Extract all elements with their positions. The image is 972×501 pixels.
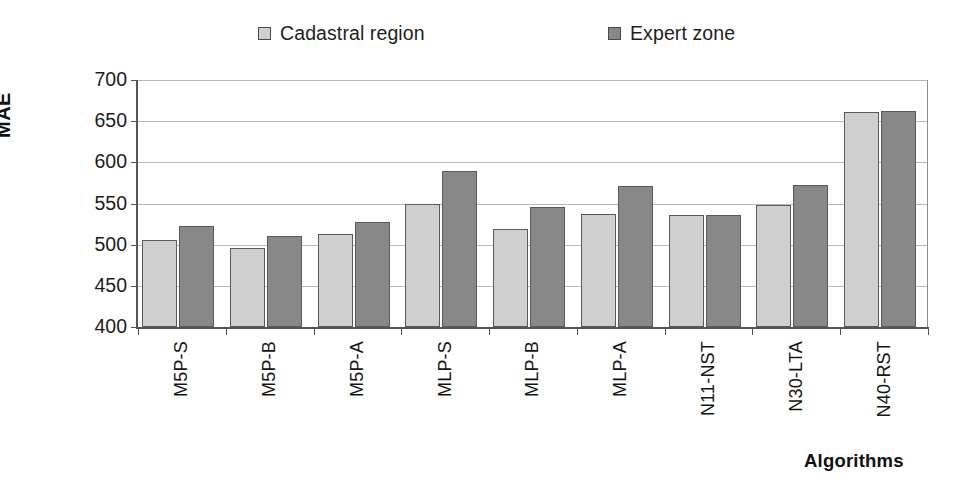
y-tick-label: 650 bbox=[94, 109, 127, 132]
x-tick-mark bbox=[314, 327, 315, 335]
y-tick-label: 400 bbox=[94, 315, 127, 338]
legend-label: Expert zone bbox=[630, 22, 735, 45]
bar bbox=[179, 226, 214, 327]
bar-group: N11-NST bbox=[665, 80, 753, 327]
bar bbox=[318, 234, 353, 327]
bar bbox=[706, 215, 741, 327]
bar bbox=[493, 229, 528, 327]
x-tick-mark bbox=[665, 327, 666, 335]
y-axis-title: MAE bbox=[0, 98, 15, 138]
legend-swatch-icon bbox=[258, 27, 271, 40]
x-tick-label: MLP-S bbox=[435, 341, 456, 397]
bar bbox=[581, 214, 616, 327]
y-tick-mark bbox=[131, 245, 138, 246]
legend-item-expert-zone: Expert zone bbox=[608, 22, 735, 45]
y-tick-label: 500 bbox=[94, 233, 127, 256]
x-tick-mark bbox=[840, 327, 841, 335]
x-tick-label: M5P-A bbox=[347, 341, 368, 397]
x-tick-label: MLP-B bbox=[522, 341, 543, 397]
bar-group: MLP-S bbox=[401, 80, 489, 327]
x-tick-label: N11-NST bbox=[698, 341, 719, 416]
x-tick-mark bbox=[401, 327, 402, 335]
bar bbox=[142, 240, 177, 327]
legend-label: Cadastral region bbox=[280, 22, 425, 45]
bar-group: N40-RST bbox=[840, 80, 928, 327]
bar bbox=[405, 204, 440, 327]
y-tick-label: 600 bbox=[94, 150, 127, 173]
y-tick-mark bbox=[131, 327, 138, 328]
x-tick-mark bbox=[226, 327, 227, 335]
bar bbox=[230, 248, 265, 327]
bar bbox=[267, 236, 302, 327]
bar-group: MLP-A bbox=[577, 80, 665, 327]
x-tick-mark bbox=[489, 327, 490, 335]
x-tick-mark bbox=[138, 327, 139, 335]
y-tick-mark bbox=[131, 121, 138, 122]
y-tick-mark bbox=[131, 286, 138, 287]
x-axis-title: Algorithms bbox=[804, 450, 904, 472]
chart-legend: Cadastral region Expert zone bbox=[0, 22, 972, 52]
chart-plot-area: 400450500550600650700 M5P-SM5P-BM5P-AMLP… bbox=[136, 80, 928, 329]
bar bbox=[844, 112, 879, 327]
bar-group: M5P-A bbox=[314, 80, 402, 327]
bar bbox=[793, 185, 828, 327]
y-tick-label: 550 bbox=[94, 192, 127, 215]
bar-group: MLP-B bbox=[489, 80, 577, 327]
bar-group: M5P-S bbox=[138, 80, 226, 327]
x-tick-mark bbox=[752, 327, 753, 335]
x-tick-mark bbox=[928, 327, 929, 335]
x-tick-label: M5P-S bbox=[171, 341, 192, 397]
x-tick-label: N30-LTA bbox=[786, 341, 807, 412]
bar bbox=[355, 222, 390, 327]
bar-group: M5P-B bbox=[226, 80, 314, 327]
bar-group: N30-LTA bbox=[752, 80, 840, 327]
y-tick-mark bbox=[131, 80, 138, 81]
bar bbox=[442, 171, 477, 327]
y-tick-label: 700 bbox=[94, 68, 127, 91]
x-tick-label: MLP-A bbox=[610, 341, 631, 397]
x-tick-label: M5P-B bbox=[259, 341, 280, 397]
x-tick-mark bbox=[577, 327, 578, 335]
legend-swatch-icon bbox=[608, 27, 621, 40]
legend-item-cadastral-region: Cadastral region bbox=[258, 22, 425, 45]
bar bbox=[669, 215, 704, 327]
bar bbox=[756, 205, 791, 327]
bar-groups: M5P-SM5P-BM5P-AMLP-SMLP-BMLP-AN11-NSTN30… bbox=[138, 80, 928, 327]
bar bbox=[881, 111, 916, 327]
x-tick-label: N40-RST bbox=[874, 341, 895, 417]
y-tick-label: 450 bbox=[94, 274, 127, 297]
bar bbox=[618, 186, 653, 327]
y-tick-mark bbox=[131, 162, 138, 163]
y-tick-mark bbox=[131, 204, 138, 205]
bar bbox=[530, 207, 565, 327]
